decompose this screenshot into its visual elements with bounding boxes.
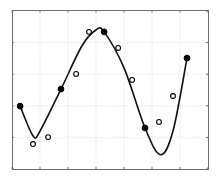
open-circle-marker [74, 71, 79, 76]
open-circle-marker [31, 142, 36, 147]
filled-knot-points [17, 29, 190, 131]
filled-circle-marker [17, 103, 23, 109]
open-circle-marker [87, 29, 92, 34]
open-circle-marker [157, 120, 162, 125]
open-circle-marker [116, 46, 121, 51]
open-circle-marker [171, 94, 176, 99]
fitted-curve [20, 28, 187, 155]
filled-circle-marker [184, 55, 190, 61]
filled-circle-marker [142, 125, 148, 131]
chart [0, 0, 218, 180]
open-circle-marker [130, 77, 135, 82]
plot-frame [13, 11, 209, 170]
axis-ticks [12, 11, 208, 170]
open-sample-points [31, 29, 176, 146]
grid-lines [12, 11, 208, 169]
filled-circle-marker [101, 29, 107, 35]
open-circle-marker [46, 135, 51, 140]
filled-circle-marker [58, 86, 64, 92]
